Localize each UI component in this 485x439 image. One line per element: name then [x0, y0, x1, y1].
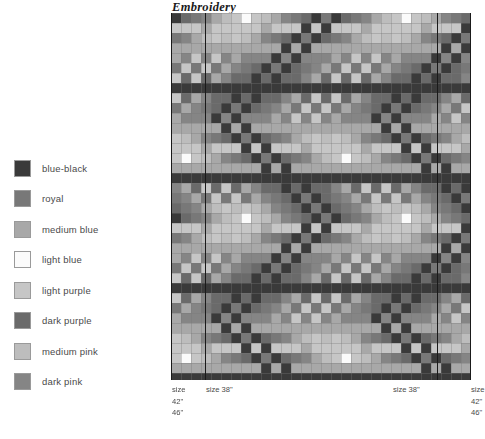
legend-item: dark purple: [14, 306, 154, 337]
legend-swatch-medium-blue: [14, 221, 31, 238]
legend-label: medium blue: [42, 224, 99, 235]
legend-label: dark pink: [42, 376, 82, 387]
legend-item: medium pink: [14, 336, 154, 367]
size-label-line: 42": [471, 396, 485, 408]
legend-item: dark pink: [14, 367, 154, 398]
pattern-grid-canvas: [171, 13, 471, 380]
legend-label: medium pink: [42, 346, 98, 357]
legend-swatch-light-blue: [14, 251, 31, 268]
legend-label: light blue: [42, 254, 82, 265]
size-label-right-inner: size 38": [393, 384, 420, 396]
legend-item: medium blue: [14, 214, 154, 245]
legend-swatch-medium-pink: [14, 343, 31, 360]
size-label-left-outer: size42"46": [172, 384, 186, 419]
legend-swatch-dark-purple: [14, 312, 31, 329]
legend-item: blue-black: [14, 153, 154, 184]
legend-label: blue-black: [42, 163, 87, 174]
legend-label: light purple: [42, 285, 91, 296]
legend-swatch-blue-black: [14, 160, 31, 177]
legend-swatch-royal: [14, 190, 31, 207]
size-label-line: 42": [172, 396, 186, 408]
legend-item: light blue: [14, 245, 154, 276]
size-label-line: size 38": [206, 384, 233, 396]
legend-item: royal: [14, 184, 154, 215]
size-label-line: 46": [471, 407, 485, 419]
legend-label: royal: [42, 193, 64, 204]
size-label-right-outer: size42"46": [471, 384, 485, 419]
legend-swatch-dark-pink: [14, 373, 31, 390]
legend-swatch-light-purple: [14, 282, 31, 299]
size-label-line: 46": [172, 407, 186, 419]
size-label-line: size 38": [393, 384, 420, 396]
size-label-left-inner: size 38": [206, 384, 233, 396]
size-label-line: size: [471, 384, 485, 396]
legend-label: dark purple: [42, 315, 92, 326]
pattern-chart: [171, 13, 471, 380]
color-legend: blue-blackroyalmedium bluelight blueligh…: [14, 153, 154, 397]
legend-item: light purple: [14, 275, 154, 306]
size-label-line: size: [172, 384, 186, 396]
